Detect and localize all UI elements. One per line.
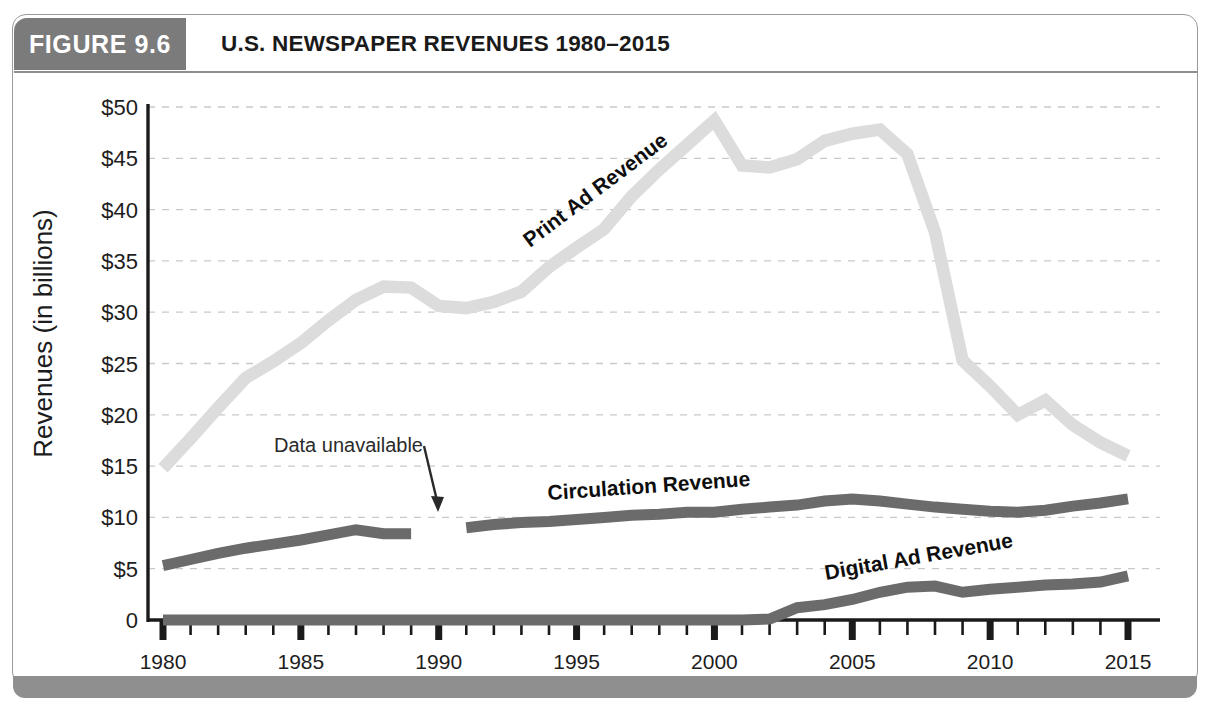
y-tick-label: $30	[101, 300, 138, 325]
series-label-circulation-revenue: Circulation Revenue	[547, 467, 751, 504]
x-tick-label: 1990	[415, 650, 462, 673]
chart-plot-area: $50$45$40$35$30$25$20$15$10$50 198019851…	[0, 0, 1212, 707]
chart-annotations: Data unavailable	[274, 434, 444, 512]
y-tick-label: $45	[101, 146, 138, 171]
x-axis-tick-labels: 19801985199019952000200520102015	[140, 650, 1152, 673]
x-tick-label: 1980	[140, 650, 187, 673]
series-label-digital-ad-revenue: Digital Ad Revenue	[823, 528, 1015, 584]
line-chart: $50$45$40$35$30$25$20$15$10$50 198019851…	[0, 0, 1212, 707]
annotation-arrow-line	[424, 446, 438, 505]
y-tick-label: 0	[126, 608, 138, 633]
figure-container: FIGURE 9.6 U.S. NEWSPAPER REVENUES 1980–…	[0, 0, 1212, 707]
series-line-print-ad-revenue	[163, 120, 1128, 468]
y-tick-label: $15	[101, 454, 138, 479]
y-axis-tick-labels: $50$45$40$35$30$25$20$15$10$50	[101, 95, 138, 633]
x-tick-label: 2005	[829, 650, 876, 673]
y-tick-label: $25	[101, 352, 138, 377]
annotation-arrow-head	[431, 496, 444, 512]
x-tick-label: 1985	[277, 650, 324, 673]
series-line-circulation-revenue	[466, 499, 1128, 528]
series-line-digital-ad-revenue	[163, 576, 1128, 620]
y-tick-label: $20	[101, 403, 138, 428]
x-tick-label: 1995	[553, 650, 600, 673]
x-tick-label: 2000	[691, 650, 738, 673]
y-tick-label: $10	[101, 505, 138, 530]
x-tick-label: 2010	[967, 650, 1014, 673]
x-tick-label: 2015	[1105, 650, 1152, 673]
series-line-circulation-revenue	[163, 530, 411, 566]
y-tick-label: $35	[101, 249, 138, 274]
figure-footer-bar	[13, 676, 1197, 698]
y-tick-label: $50	[101, 95, 138, 120]
y-tick-label: $40	[101, 198, 138, 223]
annotation-data-unavailable: Data unavailable	[274, 434, 423, 456]
y-tick-label: $5	[114, 557, 138, 582]
